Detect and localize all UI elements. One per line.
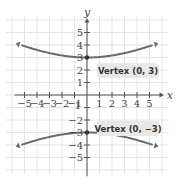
origin-tick-label: 1: [75, 100, 81, 111]
y-tick-label: 1: [77, 77, 83, 88]
x-tick-label: 4: [134, 98, 140, 109]
hyperbola-graph: xy −5−4−3−2−112345112345−2−3−4−5 Vertex …: [0, 0, 178, 186]
vertex-callout-label: Vertex (0, 3): [98, 66, 158, 76]
x-tick-label: 3: [121, 98, 127, 109]
y-tick-label: −2: [68, 115, 83, 126]
x-axis-label: x: [167, 89, 174, 102]
y-tick-label: 3: [77, 52, 83, 63]
y-tick-label: −5: [68, 152, 83, 163]
y-tick-label: −4: [68, 140, 83, 151]
x-tick-label: 2: [109, 98, 115, 109]
x-tick-label: 1: [96, 98, 102, 109]
x-tick-label: 5: [146, 98, 152, 109]
y-tick-label: −3: [68, 127, 83, 138]
y-axis-label: y: [83, 6, 91, 19]
vertex-callout-label: Vertex (0, −3): [94, 124, 161, 134]
y-tick-label: 5: [77, 27, 83, 38]
y-tick-label: 4: [77, 40, 83, 51]
vertex-point: [85, 55, 89, 59]
vertex-point: [85, 130, 89, 134]
y-tick-label: 2: [77, 65, 83, 76]
